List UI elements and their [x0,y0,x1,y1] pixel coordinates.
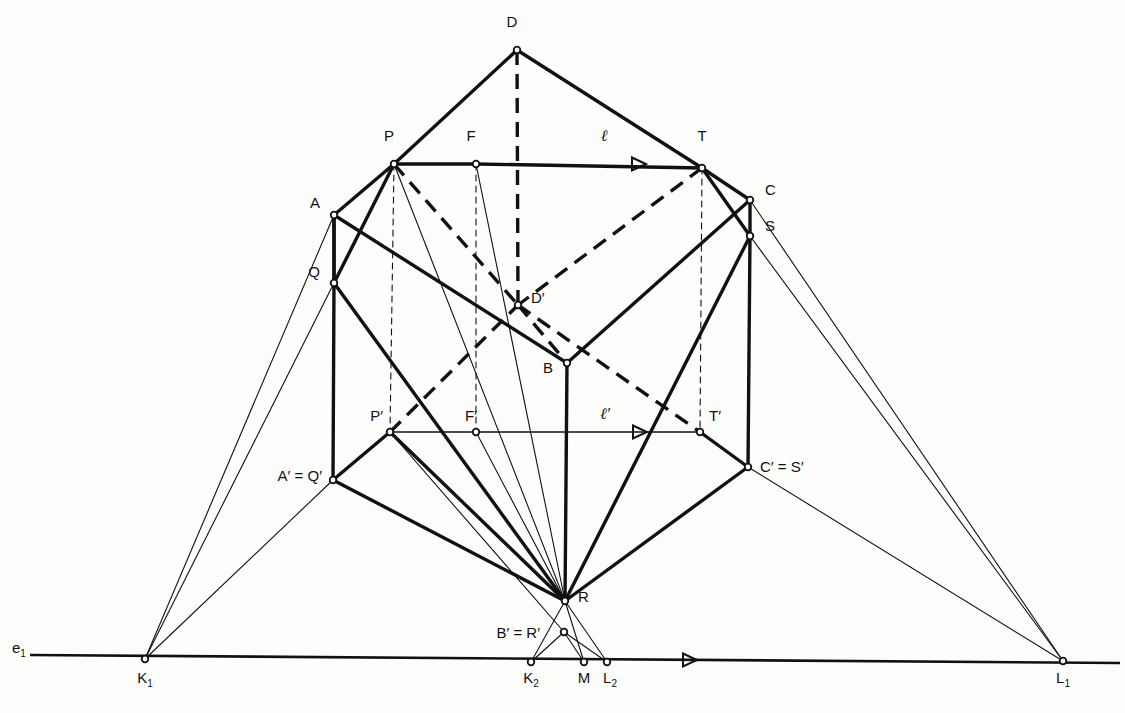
edge-F-T [476,164,702,168]
construction-L1-S [750,236,1063,661]
edge-P-Q [334,164,394,283]
point-AprimeQprime [330,477,337,484]
label-R: R [578,588,589,605]
point-A [331,212,338,219]
edge-Pprime-AprimeQprime [333,432,390,480]
label-K1: K1 [105,669,185,689]
point-S [747,233,754,240]
edge-T-S [702,168,750,236]
edge-B-R [565,363,567,601]
point-Q [331,280,338,287]
edge-D-T [517,50,702,168]
label-F: F [431,127,511,144]
label-B: B [0,359,553,376]
label-CprimeSprime: C′ = S′ [760,458,804,475]
label-Pprime: P′ [0,407,383,424]
point-BprimeRprime [561,629,568,636]
edge-P-A [334,164,394,215]
point-R [562,598,569,605]
edge-S-CprimeSprime [748,236,750,467]
hidden-vertical-D-Dprime [517,50,518,305]
label-Tprime: T′ [709,407,721,424]
label-l: ℓ [564,127,644,145]
label-P: P [349,127,429,144]
edge-C-B [567,200,750,363]
point-M [581,659,588,666]
label-L1: L1 [1023,669,1103,689]
point-K1 [142,656,149,663]
construction-K1-A [145,215,334,659]
construction-L1-C [750,200,1063,661]
label-BprimeRprime: B′ = R′ [0,624,540,641]
projector-P-Pprime [390,164,394,432]
construction-L2-R [565,601,607,662]
construction-L1-CprimeSprime [748,467,1063,661]
label-T: T [662,127,742,144]
label-Dprime: D′ [531,289,545,306]
point-C [747,197,754,204]
edge-D-P [394,50,517,164]
label-Q: Q [0,263,320,280]
point-F [473,161,480,168]
point-K2 [528,659,535,666]
point-Pprime [387,429,394,436]
label-AprimeQprime: A′ = Q′ [0,467,322,484]
geometry-figure: DPFℓTCASQD′BP′F′ℓ′T′C′ = S′A′ = Q′RB′ = … [0,0,1125,713]
projector-T-Tprime [700,168,702,432]
construction-Fprime-R [476,432,565,601]
label-D: D [472,13,552,30]
edge-Q-AprimeQprime [333,283,334,480]
point-P [391,161,398,168]
edge-CprimeSprime-R [565,467,748,601]
hidden-edge-T-Dprime [518,168,702,305]
figure-canvas [0,0,1125,713]
point-CprimeSprime [745,464,752,471]
point-L2 [604,659,611,666]
hidden-edge-P-Dprime [394,164,518,305]
point-Tprime [697,429,704,436]
label-S: S [765,217,775,234]
edge-T-C [702,168,750,200]
construction-M-BprimeRprime [564,632,584,662]
label-L2: L2 [570,669,650,689]
point-Dprime [515,302,522,309]
construction-L2-BprimeRprime [564,632,607,662]
label-e1: e1 [12,639,26,659]
label-lprime: ℓ′ [565,405,645,423]
edge-Pprime-R [390,432,565,601]
point-T [699,165,706,172]
point-D [514,47,521,54]
point-B [564,360,571,367]
label-Fprime: F′ [431,407,511,424]
point-L1 [1060,658,1067,665]
construction-F-R [476,164,565,601]
edge-AprimeQprime-R [333,480,565,601]
edge-Tprime-CprimeSprime [700,432,748,467]
label-C: C [765,181,776,198]
point-Fprime [473,429,480,436]
label-A: A [0,194,320,211]
ground-line-e1 [30,655,1120,663]
edge-Q-R [334,283,565,601]
